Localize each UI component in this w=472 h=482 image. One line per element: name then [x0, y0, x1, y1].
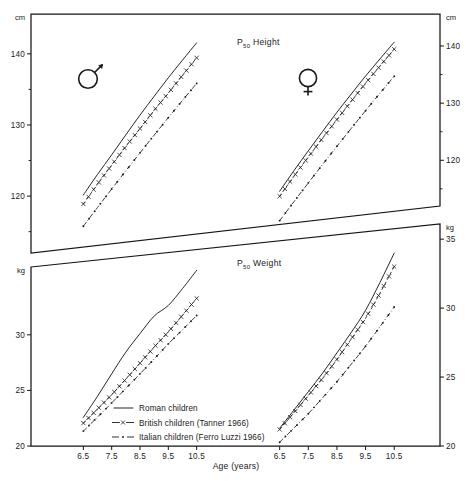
weight-xtick-label-male-9.5: 9.5	[162, 452, 174, 461]
weight-chart-female-series-2-markers-dot-3	[296, 424, 298, 426]
height-chart-male-series-2-markers-dot-3	[99, 203, 101, 205]
height-chart-male-series-2-markers-dot-19	[190, 89, 192, 91]
height-chart-male-series-2-markers-dot-5	[111, 188, 113, 190]
weight-chart-male-series-2-markers-dot-6	[116, 396, 118, 398]
height-chart-male-series-2-line	[83, 83, 196, 226]
height-chart-male-series-2-markers-dot-4	[105, 195, 107, 197]
height-chart-female-series-2-markers-dot-9	[330, 153, 332, 155]
legend: Roman childrenBritish children (Tanner 1…	[112, 404, 265, 442]
weight-chart-female-series-2-markers-dot-12	[347, 367, 349, 369]
height-chart-female-series-2-markers-dot-14	[359, 117, 361, 119]
growth-chart-figure: 120120130130140140cmcm20202525303035kgkg…	[0, 0, 472, 482]
legend-label-2: Italian children (Ferro Luzzi 1966)	[139, 433, 265, 442]
weight-chart-female-series-2-markers-dot-11	[342, 374, 344, 376]
panel-titles: P50 HeightP50 Weight	[237, 37, 282, 270]
height-chart-female-series-2-markers-dot-11	[342, 138, 344, 140]
weight-chart-male-series-2-markers-dot-5	[111, 402, 113, 404]
height-chart-male-series-1-markers	[81, 56, 198, 206]
height-chart-female-series-2-markers-dot-2	[290, 205, 292, 207]
height-chart-male-series-2-markers-dot-10	[139, 152, 141, 154]
weight-ytick-label-left-25: 25	[15, 386, 25, 395]
weight-chart-female-series-2-markers-dot-13	[353, 360, 355, 362]
height-chart-female-series-2-markers-dot-17	[376, 96, 378, 98]
chart-frames	[31, 14, 440, 446]
height-chart-female-series-2-markers-dot-3	[296, 197, 298, 199]
weight-chart-male-series-0-line	[83, 270, 196, 417]
height-chart-female-series-0-line	[280, 42, 395, 191]
height-chart-male-series-2-markers-dot-14	[162, 124, 164, 126]
weight-chart-female-series-2-line	[280, 307, 395, 442]
weight-chart-female-series-2-markers-dot-8	[325, 394, 327, 396]
weight-chart-female-series-2-markers-dot-1	[284, 436, 286, 438]
weight-chart-male-series-2-markers-dot-11	[145, 367, 147, 369]
x-axis-title: Age (years)	[213, 461, 260, 471]
height-chart-male-series-2-markers-dot-12	[150, 138, 152, 140]
height-chart-male-series-2-markers-dot-17	[179, 103, 181, 105]
height-chart-female-series-2-markers-dot-1	[284, 212, 286, 214]
height-chart-female-panel	[278, 42, 397, 221]
weight-chart-male-series-2-markers-dot-18	[184, 326, 186, 328]
height-ytick-label-right-130: 130	[446, 99, 461, 108]
height-chart-male-series-1-line	[83, 58, 196, 204]
weight-chart-male-series-2-markers-dot-17	[179, 332, 181, 334]
height-chart-male-series-2-markers	[82, 82, 197, 227]
weight-chart-female-series-2-markers-dot-19	[388, 314, 390, 316]
weight-chart-male-series-2-markers-dot-13	[156, 355, 158, 357]
height-chart-female-series-2-markers-dot-4	[302, 189, 304, 191]
height-chart-female-series-2-markers-dot-5	[307, 182, 309, 184]
weight-chart-y-axis: 20202525303035kgkg	[15, 223, 455, 451]
legend-item-2: Italian children (Ferro Luzzi 1966)	[112, 433, 265, 442]
gender-symbols	[79, 64, 317, 96]
weight-chart-female-series-2-markers-dot-9	[330, 387, 332, 389]
legend-item-1: British children (Tanner 1966)	[112, 419, 249, 428]
weight-chart-female-panel	[278, 253, 397, 443]
weight-chart-female-series-2-markers-dot-2	[290, 430, 292, 432]
weight-xtick-label-female-6.5: 6.5	[274, 452, 286, 461]
weight-chart-female-series-2-markers-dot-17	[376, 330, 378, 332]
height-panel-title-suffix: Height	[250, 37, 280, 47]
weight-chart-male-series-2-markers-dot-3	[99, 413, 101, 415]
weight-ytick-label-right-20: 20	[446, 442, 456, 451]
weight-chart-female-series-2-markers-dot-20	[393, 306, 395, 308]
weight-chart-female-series-2-markers-dot-10	[336, 381, 338, 383]
height-chart-male-series-2-markers-dot-2	[94, 210, 96, 212]
height-chart-male-series-2-markers-dot-15	[167, 117, 169, 119]
weight-chart-male-series-2-markers-dot-10	[139, 373, 141, 375]
height-chart-male-series-2-markers-dot-11	[145, 145, 147, 147]
weight-chart	[81, 253, 396, 443]
height-panel-title: P50 Height	[237, 37, 280, 49]
height-chart-female-series-2-markers-dot-20	[393, 75, 395, 77]
height-chart-female-series-1-line	[280, 49, 395, 196]
weight-xtick-label-male-7.5: 7.5	[106, 452, 118, 461]
weight-chart-female-series-2-markers-dot-14	[359, 352, 361, 354]
weight-chart-female-series-0-line	[280, 253, 395, 428]
weight-chart-female-series-2-markers-dot-0	[279, 441, 281, 443]
weight-ytick-label-left-20: 20	[15, 442, 25, 451]
height-chart-female-series-1-markers	[278, 47, 397, 198]
height-chart-frame	[31, 14, 440, 253]
height-chart-female-series-2-markers-dot-15	[365, 110, 367, 112]
weight-panel-title-suffix: Weight	[250, 258, 281, 268]
weight-xtick-label-female-10.5: 10.5	[386, 452, 403, 461]
weight-chart-male-series-2-markers-dot-8	[128, 385, 130, 387]
weight-chart-male-series-2-markers	[82, 315, 197, 433]
height-ytick-label-left-130: 130	[11, 121, 26, 130]
weight-ytick-label-left-30: 30	[15, 331, 25, 340]
weight-chart-male-series-2-markers-dot-4	[105, 408, 107, 410]
weight-xtick-label-male-10.5: 10.5	[188, 452, 205, 461]
weight-xtick-label-female-9.5: 9.5	[360, 452, 372, 461]
height-chart-female-series-2-line	[280, 76, 395, 220]
weight-chart-male-series-2-markers-dot-9	[133, 379, 135, 381]
height-chart-male-series-2-markers-dot-18	[184, 96, 186, 98]
height-chart-female-series-2-markers-dot-12	[347, 131, 349, 133]
weight-chart-female-series-2-markers-dot-18	[382, 322, 384, 324]
weight-xtick-label-male-8.5: 8.5	[134, 452, 146, 461]
height-chart-male-panel	[81, 43, 198, 227]
male-symbol	[79, 64, 103, 88]
height-chart-male-series-2-markers-dot-7	[122, 174, 124, 176]
weight-ytick-label-right-35: 35	[446, 235, 456, 244]
weight-chart-female-series-2-markers-dot-7	[319, 400, 321, 402]
height-chart-male-series-2-markers-dot-0	[82, 225, 84, 227]
weight-chart-male-series-2-markers-dot-20	[196, 315, 198, 317]
weight-chart-male-series-2-markers-dot-19	[190, 320, 192, 322]
